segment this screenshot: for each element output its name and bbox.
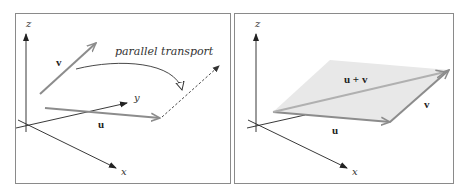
vector-u-label: u: [98, 118, 104, 130]
parallel-transport-arrow: [76, 63, 182, 90]
vector-v: [40, 43, 96, 94]
vector-v-label: v: [56, 56, 62, 68]
right-diagram: z x u v u + v: [247, 18, 449, 177]
vector-u: [45, 108, 160, 118]
left-diagram: z y x v u parallel transport: [16, 18, 219, 177]
z-axis-label: z: [25, 18, 32, 29]
x-axis-label-right: x: [352, 166, 358, 177]
transported-vector-v: [162, 66, 219, 117]
vector-sum-label: u + v: [344, 73, 368, 85]
vector-v-label-right: v: [424, 98, 430, 110]
y-axis: [16, 103, 127, 128]
parallel-transport-label: parallel transport: [115, 45, 214, 58]
vector-u-label-right: u: [332, 124, 338, 136]
y-axis-label: y: [133, 92, 140, 103]
z-axis-label-right: z: [254, 18, 261, 29]
x-axis-label: x: [121, 166, 127, 177]
vector-diagram: z y x v u parallel transport z x u: [0, 0, 466, 196]
